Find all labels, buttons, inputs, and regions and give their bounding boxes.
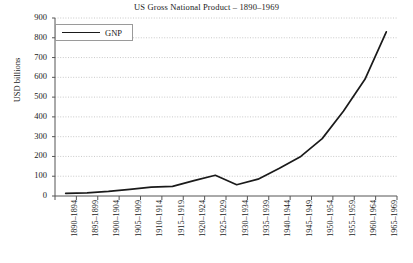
legend-label-gnp: GNP <box>105 28 122 38</box>
y-tick-label: 0 <box>21 191 47 200</box>
x-tick-label: 1965–1969 <box>390 200 399 237</box>
x-tick-label: 1890–1894 <box>70 200 79 237</box>
x-tick-label: 1895–1899 <box>91 200 100 237</box>
legend: GNP <box>55 24 133 41</box>
x-tick-label: 1960–1964 <box>369 200 378 237</box>
x-tick-label: 1950–1954 <box>326 200 335 237</box>
y-tick-label: 700 <box>21 53 47 62</box>
x-tick-label: 1920–1924 <box>198 200 207 237</box>
y-tick-label: 200 <box>21 151 47 160</box>
x-tick-label: 1930–1934 <box>241 200 250 237</box>
y-tick-label: 600 <box>21 72 47 81</box>
series-line-gnp <box>66 32 387 194</box>
x-tick-label: 1940–1944 <box>283 200 292 237</box>
x-tick-label: 1925–1929 <box>219 200 228 237</box>
x-tick-label: 1955–1959 <box>348 200 357 237</box>
x-tick-label: 1935–1939 <box>262 200 271 237</box>
y-tick-label: 500 <box>21 92 47 101</box>
x-tick-label: 1910–1914 <box>155 200 164 237</box>
legend-line-swatch <box>62 32 100 33</box>
x-tick-label: 1905–1909 <box>134 200 143 237</box>
x-tick-label: 1915–1919 <box>177 200 186 237</box>
gridlines <box>55 18 397 176</box>
y-tick-label: 800 <box>21 33 47 42</box>
x-tick-label: 1900–1904 <box>112 200 121 237</box>
y-tick-label: 100 <box>21 171 47 180</box>
y-tick-label: 900 <box>21 13 47 22</box>
y-tick-label: 400 <box>21 112 47 121</box>
y-tick-label: 300 <box>21 132 47 141</box>
gnp-line-chart: US Gross National Product – 1890–1969 US… <box>0 0 413 263</box>
x-tick-label: 1945–1949 <box>305 200 314 237</box>
